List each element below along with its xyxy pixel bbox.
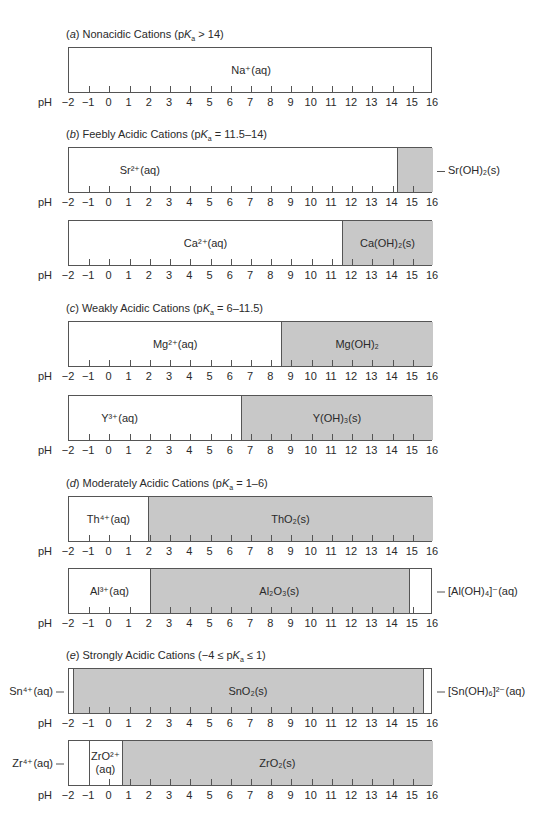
tick-label: 1	[126, 269, 132, 281]
tick-label: 2	[146, 444, 152, 456]
tick-mark	[190, 259, 191, 265]
tick-mark	[251, 86, 252, 92]
tick-mark	[332, 360, 333, 366]
tick-mark	[352, 360, 353, 366]
tick-label: 6	[227, 370, 233, 382]
tick-mark	[291, 607, 292, 613]
bar-sn4: SnO₂(s)	[68, 668, 432, 714]
bar-sr2: Sr²⁺(aq)	[68, 147, 432, 193]
bar-mg2: Mg²⁺(aq)Mg(OH)₂	[68, 321, 432, 367]
tick-label: 13	[365, 789, 377, 801]
tick-mark	[109, 86, 110, 92]
tick-mark	[150, 434, 151, 440]
tick-mark	[89, 535, 90, 541]
tick-mark	[413, 360, 414, 366]
tick-mark	[190, 86, 191, 92]
tick-mark	[231, 779, 232, 785]
tick-label: 4	[186, 444, 192, 456]
tick-label: 15	[406, 269, 418, 281]
tick-mark	[109, 259, 110, 265]
tick-label: 15	[406, 717, 418, 729]
species-label: SnO₂(s)	[228, 685, 267, 698]
tick-label: 1	[126, 789, 132, 801]
tick-label: −1	[82, 617, 95, 629]
species-label: ThO₂(s)	[271, 513, 310, 526]
tick-label: 10	[305, 269, 317, 281]
tick-label: 4	[186, 545, 192, 557]
tick-label: 5	[206, 545, 212, 557]
tick-label: 10	[305, 370, 317, 382]
tick-label: 11	[325, 444, 336, 456]
axis-ph-label: pH	[38, 545, 52, 557]
section-title-c: (c) Weakly Acidic Cations (pKa = 6–11.5)	[66, 302, 263, 314]
tick-mark	[190, 186, 191, 192]
tick-mark	[413, 259, 414, 265]
tick-mark	[291, 360, 292, 366]
tick-label: 5	[206, 789, 212, 801]
tick-label: 4	[186, 617, 192, 629]
bar-th4: Th⁴⁺(aq)ThO₂(s)	[68, 496, 432, 542]
tick-label: 5	[206, 444, 212, 456]
tick-label: 12	[345, 789, 357, 801]
tick-mark	[332, 434, 333, 440]
tick-mark	[251, 607, 252, 613]
tick-label: 14	[385, 789, 397, 801]
tick-label: 3	[166, 789, 172, 801]
tick-label: 12	[345, 717, 357, 729]
tick-mark	[170, 779, 171, 785]
ph-axis: pH−2−1012345678910111213141516	[0, 444, 543, 458]
tick-mark	[170, 186, 171, 192]
tick-mark	[150, 707, 151, 713]
tick-mark	[109, 707, 110, 713]
tick-label: 0	[105, 269, 111, 281]
tick-mark	[352, 779, 353, 785]
tick-mark	[352, 259, 353, 265]
tick-label: 9	[287, 370, 293, 382]
tick-mark	[251, 259, 252, 265]
tick-mark	[271, 86, 272, 92]
tick-label: 14	[385, 444, 397, 456]
tick-label: 9	[287, 269, 293, 281]
tick-mark	[89, 434, 90, 440]
tick-label: −2	[62, 617, 75, 629]
tick-label: 0	[105, 545, 111, 557]
species-label: Ca²⁺(aq)	[184, 237, 227, 250]
tick-mark	[372, 86, 373, 92]
tick-mark	[231, 707, 232, 713]
section-title-a: (a) Nonacidic Cations (pKa > 14)	[66, 28, 224, 40]
tick-label: 11	[325, 545, 336, 557]
tick-label: 11	[325, 370, 336, 382]
tick-label: 1	[126, 617, 132, 629]
section-title-b: (b) Feebly Acidic Cations (pKa = 11.5–14…	[66, 128, 267, 140]
tick-label: 15	[406, 444, 418, 456]
ph-axis: pH−2−1012345678910111213141516	[0, 370, 543, 384]
tick-label: 6	[227, 196, 233, 208]
tick-label: 14	[385, 370, 397, 382]
tick-label: −1	[82, 96, 95, 108]
axis-ph-label: pH	[38, 370, 52, 382]
axis-ph-label: pH	[38, 617, 52, 629]
tick-mark	[332, 779, 333, 785]
tick-mark	[170, 360, 171, 366]
tick-label: 7	[247, 269, 253, 281]
tick-label: 6	[227, 617, 233, 629]
tick-mark	[393, 535, 394, 541]
tick-label: 16	[426, 789, 438, 801]
tick-label: 1	[126, 717, 132, 729]
tick-mark	[130, 607, 131, 613]
tick-mark	[211, 186, 212, 192]
tick-mark	[150, 360, 151, 366]
tick-label: 14	[385, 717, 397, 729]
tick-mark	[150, 86, 151, 92]
tick-mark	[150, 259, 151, 265]
bar-ca2: Ca²⁺(aq)Ca(OH)₂(s)	[68, 220, 432, 266]
tick-label: 9	[287, 789, 293, 801]
species-label: ZrO₂(s)	[259, 757, 295, 770]
tick-label: 14	[385, 617, 397, 629]
tick-mark	[332, 707, 333, 713]
axis-ph-label: pH	[38, 269, 52, 281]
tick-label: 6	[227, 717, 233, 729]
tick-label: 11	[325, 617, 336, 629]
tick-label: −2	[62, 545, 75, 557]
bar-zr4: ZrO²⁺(aq)ZrO₂(s)	[68, 740, 432, 786]
